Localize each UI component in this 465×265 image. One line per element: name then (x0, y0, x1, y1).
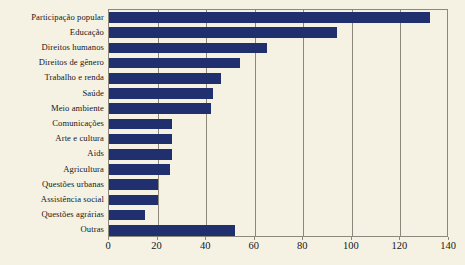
bar-row (109, 177, 449, 192)
horizontal-bar-chart: Participação popularEducaçãoDireitos hum… (0, 0, 465, 265)
x-tick-label: 40 (200, 239, 211, 253)
category-label: Participação popular (0, 12, 104, 22)
category-label: Aids (0, 148, 104, 158)
bar (109, 119, 172, 130)
x-tick-40 (205, 237, 206, 240)
bar-row (109, 40, 449, 55)
bar (109, 88, 213, 99)
category-label: Direitos de gênero (0, 57, 104, 67)
bar-row (109, 162, 449, 177)
bar (109, 225, 235, 236)
bar-row (109, 208, 449, 223)
bar (109, 58, 240, 69)
x-tick-100 (351, 237, 352, 240)
category-label: Meio ambiente (0, 103, 104, 113)
bar-row (109, 101, 449, 116)
category-label: Educação (0, 27, 104, 37)
category-label: Comunicações (0, 118, 104, 128)
bar (109, 73, 221, 84)
x-tick-label: 80 (297, 239, 308, 253)
value-axis-labels: 020406080100120140 (0, 239, 465, 257)
category-label: Questões urbanas (0, 179, 104, 189)
bar-row (109, 25, 449, 40)
bar-row (109, 147, 449, 162)
bar-row (109, 192, 449, 207)
bar-row (109, 86, 449, 101)
x-tick-label: 120 (392, 239, 408, 253)
bar-row (109, 132, 449, 147)
x-tick-20 (157, 237, 158, 240)
category-label: Outras (0, 224, 104, 234)
plot-area (108, 9, 448, 237)
x-tick-label: 140 (440, 239, 456, 253)
bar (109, 43, 267, 54)
bar-row (109, 71, 449, 86)
bar-row (109, 56, 449, 71)
bar (109, 210, 145, 221)
bar (109, 179, 158, 190)
bar (109, 164, 170, 175)
category-label: Assistência social (0, 194, 104, 204)
bar (109, 27, 337, 38)
x-tick-60 (254, 237, 255, 240)
bar (109, 12, 430, 23)
bar-row (109, 223, 449, 238)
category-label: Trabalho e renda (0, 72, 104, 82)
x-tick-label: 0 (105, 239, 110, 253)
bars-layer (109, 10, 447, 236)
category-label: Questões agrárias (0, 209, 104, 219)
bar (109, 134, 172, 145)
category-axis-labels: Participação popularEducaçãoDireitos hum… (0, 9, 104, 237)
bar (109, 149, 172, 160)
bar-row (109, 116, 449, 131)
bar (109, 103, 211, 114)
x-tick-label: 60 (248, 239, 259, 253)
x-tick-120 (399, 237, 400, 240)
x-tick-label: 100 (343, 239, 359, 253)
x-tick-0 (108, 237, 109, 240)
category-label: Arte e cultura (0, 133, 104, 143)
x-tick-140 (448, 237, 449, 240)
bar (109, 195, 158, 206)
category-label: Direitos humanos (0, 42, 104, 52)
category-label: Saúde (0, 88, 104, 98)
x-tick-label: 20 (151, 239, 162, 253)
category-label: Agricultura (0, 164, 104, 174)
x-tick-80 (302, 237, 303, 240)
bar-row (109, 10, 449, 25)
